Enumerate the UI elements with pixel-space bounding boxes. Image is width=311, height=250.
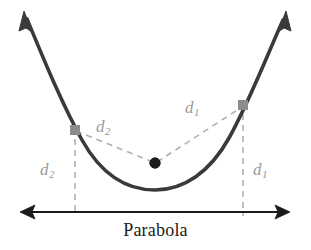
focus-point-marker — [150, 158, 160, 168]
parabola-left-arrowhead-icon — [19, 11, 32, 32]
label-d1-upper-base: d — [185, 98, 194, 117]
label-d2-upper: d2 — [96, 118, 110, 135]
label-d2-lower-base: d — [40, 160, 49, 179]
label-d1-lower-base: d — [253, 160, 262, 179]
label-d1-lower: d1 — [253, 161, 267, 178]
label-d1-lower-sub: 1 — [262, 168, 268, 180]
parabola-figure: d2 d2 d1 d1 Parabola — [0, 0, 311, 250]
label-d1-upper: d1 — [185, 99, 199, 116]
label-d2-lower: d2 — [40, 161, 54, 178]
parabola-point-right-marker — [239, 101, 248, 110]
parabola-right-arrowhead-icon — [278, 11, 291, 32]
figure-caption: Parabola — [0, 220, 311, 241]
parabola-point-left-marker — [71, 126, 80, 135]
parabola-diagram-canvas — [0, 0, 311, 250]
label-d2-upper-base: d — [96, 117, 105, 136]
label-d1-upper-sub: 1 — [194, 106, 200, 118]
label-d2-lower-sub: 2 — [49, 168, 55, 180]
label-d2-upper-sub: 2 — [105, 125, 111, 137]
